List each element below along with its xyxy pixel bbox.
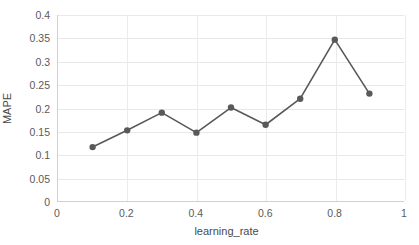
data-point-marker — [159, 109, 165, 115]
x-tick-label: 1 — [401, 208, 407, 219]
x-tick-label: 0.8 — [327, 208, 342, 219]
gridline-x — [405, 15, 406, 201]
x-tick-label: 0.4 — [188, 208, 203, 219]
data-point-marker — [89, 144, 95, 150]
data-point-marker — [262, 122, 268, 128]
line-chart: 00.050.10.150.20.250.30.350.4 00.20.40.6… — [0, 0, 419, 245]
y-axis-title: MAPE — [2, 15, 16, 202]
data-point-marker — [366, 90, 372, 96]
x-tick-label: 0 — [54, 208, 60, 219]
series-mape — [58, 15, 404, 201]
data-point-marker — [193, 129, 199, 135]
x-tick-label: 0.2 — [119, 208, 134, 219]
plot-area — [57, 15, 404, 202]
x-tick-label: 0.6 — [258, 208, 273, 219]
data-point-marker — [124, 127, 130, 133]
data-point-marker — [297, 96, 303, 102]
series-line — [93, 40, 370, 147]
x-axis-title-text: learning_rate — [194, 225, 258, 237]
x-axis-title: learning_rate — [0, 226, 419, 237]
data-point-marker — [332, 36, 338, 42]
data-point-marker — [228, 104, 234, 110]
